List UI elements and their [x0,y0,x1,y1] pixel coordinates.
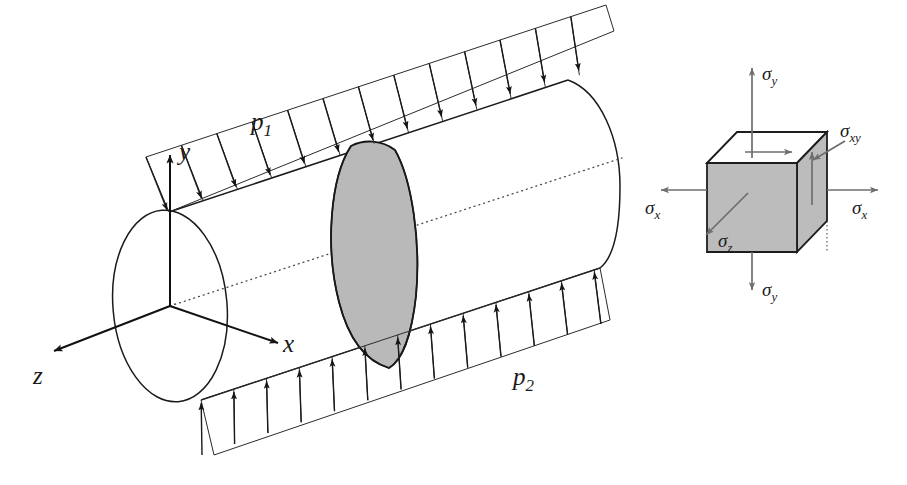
pressure-bottom-label: p2 [511,363,535,395]
z-axis-label: z [32,362,43,389]
pressure-top-label: p1 [249,108,272,140]
stress-diagram-svg: y x z p1 p2 σy [0,0,907,485]
coordinate-axes [54,155,278,351]
sigma-x-right-label: σx [852,197,867,222]
cylinder-right-cap [568,80,620,268]
y-axis-label: y [176,138,191,165]
sigma-x-left-label: σx [645,197,660,222]
z-axis-arrow [54,306,170,351]
cylinder-shaded-ring [331,141,417,368]
x-axis-label: x [282,330,294,357]
x-axis-arrow [170,306,278,343]
figure-root: y x z p1 p2 σy [0,0,907,485]
sigma-y-top-label: σy [762,63,777,88]
stress-element-cube: σy σy σx σx σxy [645,63,878,304]
ring-band [331,141,417,368]
sigma-y-bottom-label: σy [762,279,777,304]
